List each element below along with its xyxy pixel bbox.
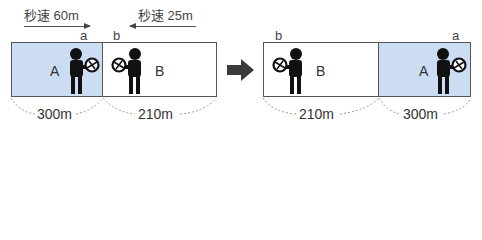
train-b-length-label: 210m (299, 107, 334, 121)
train-a-length-label: 300m (403, 107, 438, 121)
